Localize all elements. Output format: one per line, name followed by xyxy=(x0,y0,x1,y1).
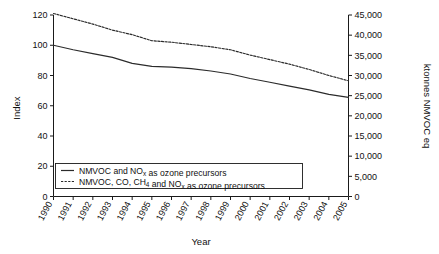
x-tick-label: 2001 xyxy=(252,200,270,222)
left-axis-tick-labels: 020406080100120 xyxy=(32,10,47,202)
x-tick-label: 1997 xyxy=(174,200,192,222)
y-axis-title-right: ktonnes NMVOC eq xyxy=(422,64,433,148)
left-tick-label: 120 xyxy=(32,10,47,20)
legend: NMVOC and NOx as ozone precursors NMVOC,… xyxy=(56,164,303,191)
x-axis-ticks xyxy=(54,197,349,201)
line-chart: 020406080100120 05,00010,00015,00020,000… xyxy=(0,0,439,254)
right-tick-label: 40,000 xyxy=(355,30,383,40)
x-tick-label: 2002 xyxy=(272,200,290,222)
left-tick-label: 60 xyxy=(37,101,47,111)
series-line-2 xyxy=(54,13,349,80)
series-group xyxy=(54,13,349,97)
x-tick-label: 1996 xyxy=(154,200,172,222)
left-tick-label: 80 xyxy=(37,71,47,81)
x-axis-title: Year xyxy=(191,236,210,247)
x-tick-label: 1992 xyxy=(75,200,93,222)
right-tick-label: 45,000 xyxy=(355,10,383,20)
right-axis-ticks xyxy=(349,15,353,197)
x-tick-label: 1999 xyxy=(213,200,231,222)
x-tick-label: 1993 xyxy=(95,200,113,222)
left-tick-label: 100 xyxy=(32,40,47,50)
x-tick-label: 2000 xyxy=(233,200,251,222)
x-tick-label: 1998 xyxy=(193,200,211,222)
x-tick-label: 1990 xyxy=(36,200,54,222)
left-axis-ticks xyxy=(50,15,54,197)
x-tick-label: 1994 xyxy=(115,200,133,222)
x-tick-label: 2004 xyxy=(311,200,329,222)
y-axis-title-left: Index xyxy=(11,96,22,119)
x-tick-label: 1995 xyxy=(134,200,152,222)
right-tick-label: 10,000 xyxy=(355,151,383,161)
right-axis-tick-labels: 05,00010,00015,00020,00025,00030,00035,0… xyxy=(355,10,383,202)
series-line-1 xyxy=(54,45,349,97)
right-tick-label: 5,000 xyxy=(355,172,378,182)
right-tick-label: 25,000 xyxy=(355,91,383,101)
chart-container: 020406080100120 05,00010,00015,00020,000… xyxy=(0,0,439,254)
left-tick-label: 40 xyxy=(37,131,47,141)
x-axis-tick-labels: 1990199119921993199419951996199719981999… xyxy=(36,200,349,222)
x-tick-label: 2003 xyxy=(292,200,310,222)
left-tick-label: 20 xyxy=(37,161,47,171)
right-tick-label: 15,000 xyxy=(355,131,383,141)
x-tick-label: 2005 xyxy=(331,200,349,222)
right-tick-label: 35,000 xyxy=(355,51,383,61)
right-tick-label: 20,000 xyxy=(355,111,383,121)
right-tick-label: 30,000 xyxy=(355,71,383,81)
right-tick-label: 0 xyxy=(355,192,360,202)
x-tick-label: 1991 xyxy=(56,200,74,222)
